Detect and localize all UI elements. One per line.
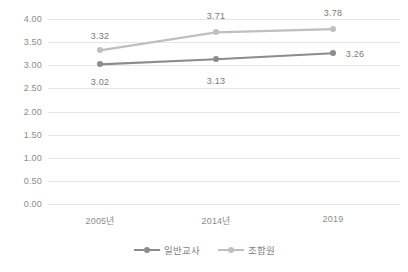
y-axis-tick-label: 2.50 <box>2 83 42 93</box>
data-point-label: 3.02 <box>91 77 109 87</box>
x-axis-tick-label: 2005년 <box>85 214 114 227</box>
data-point-label: 3.78 <box>324 8 342 18</box>
x-axis-tick-label: 2019 <box>323 214 344 224</box>
x-axis-tick-label: 2014년 <box>201 214 230 227</box>
data-point-label: 3.32 <box>91 31 109 41</box>
legend-label: 조합원 <box>248 243 275 257</box>
y-axis-tick-label: 4.00 <box>2 14 42 24</box>
y-axis-tick-label: 0.50 <box>2 176 42 186</box>
data-point-marker <box>213 56 219 62</box>
legend-label: 일반교사 <box>164 243 200 257</box>
data-point-marker <box>330 50 336 56</box>
data-point-marker <box>97 47 103 53</box>
y-axis-tick-label: 0.00 <box>2 199 42 209</box>
legend-item-1[interactable]: 조합원 <box>218 243 275 257</box>
plot-area: 3.023.133.263.323.713.78 <box>48 19 400 204</box>
data-point-marker <box>330 26 336 32</box>
data-point-label: 3.71 <box>207 11 225 21</box>
y-axis-tick-label: 3.50 <box>2 37 42 47</box>
legend-marker-icon <box>218 246 244 254</box>
y-axis-tick-label: 3.00 <box>2 60 42 70</box>
legend: 일반교사조합원 <box>0 243 408 257</box>
data-point-marker <box>97 61 103 67</box>
data-point-label: 3.26 <box>346 49 364 59</box>
y-axis-tick-label: 1.50 <box>2 130 42 140</box>
y-axis-tick-label: 2.00 <box>2 107 42 117</box>
line-chart: 4.003.503.002.502.001.501.000.500.00 3.0… <box>0 0 408 272</box>
legend-marker-icon <box>134 246 160 254</box>
y-axis-tick-label: 1.00 <box>2 153 42 163</box>
data-point-label: 3.13 <box>207 76 225 86</box>
legend-item-0[interactable]: 일반교사 <box>134 243 200 257</box>
data-point-marker <box>213 29 219 35</box>
gridline <box>48 204 400 205</box>
